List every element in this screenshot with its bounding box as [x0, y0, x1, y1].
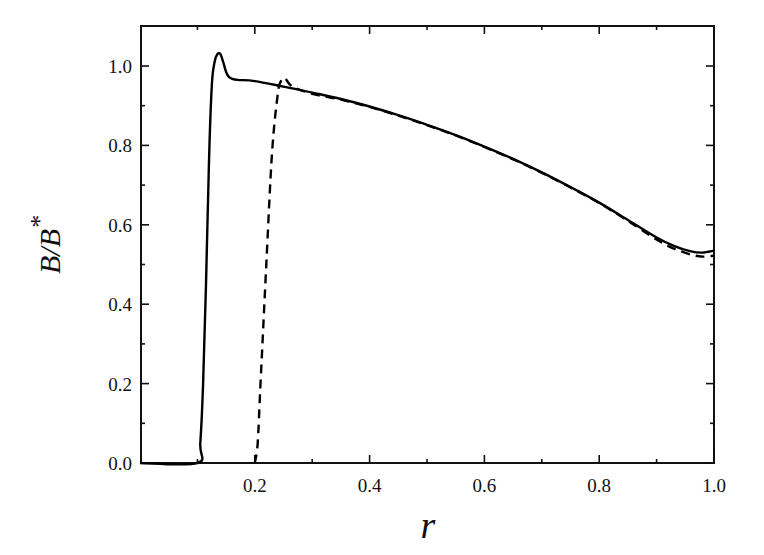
x-tick-label: 0.4 — [358, 475, 382, 496]
x-tick-labels: 0.20.40.60.81.0 — [243, 475, 726, 496]
x-tick-label: 0.6 — [473, 475, 497, 496]
y-tick-label: 0.8 — [108, 135, 132, 156]
data-series — [140, 53, 714, 464]
plot-frame — [141, 26, 714, 463]
y-tick-label: 0.4 — [108, 294, 132, 315]
y-axis-title-superscript: * — [25, 216, 54, 229]
y-axis-title-main: B/B — [33, 229, 66, 274]
y-tick-labels: 0.00.20.40.60.81.0 — [108, 56, 132, 474]
x-tick-label: 0.8 — [587, 475, 611, 496]
x-tick-label: 0.2 — [243, 475, 267, 496]
x-tick-label: 1.0 — [702, 475, 726, 496]
x-axis-title: r — [421, 504, 436, 546]
axis-ticks — [141, 26, 714, 463]
y-tick-label: 0.0 — [108, 453, 132, 474]
y-tick-label: 0.2 — [108, 374, 132, 395]
solid-curve — [140, 53, 714, 464]
dashed-curve — [255, 78, 714, 463]
y-tick-label: 1.0 — [108, 56, 132, 77]
y-axis-title: B/B* — [25, 216, 66, 274]
chart: 0.20.40.60.81.0 0.00.20.40.60.81.0 r B/B… — [0, 0, 764, 555]
y-tick-label: 0.6 — [108, 215, 132, 236]
plot-border — [141, 26, 714, 463]
